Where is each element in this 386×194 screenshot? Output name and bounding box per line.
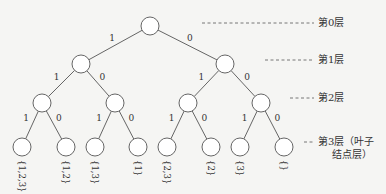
tree-node bbox=[72, 55, 90, 73]
leaf-subset-label: {} bbox=[279, 160, 289, 171]
subset-tree-diagram: 10101010101010 {1,2,3}{1,2}{1,3}{1}{2,3}… bbox=[0, 0, 386, 194]
leaf-node bbox=[275, 138, 293, 156]
edge-label: 1 bbox=[242, 113, 248, 123]
leaf-subset-label: {1,2} bbox=[61, 160, 71, 184]
edge-label: 1 bbox=[96, 113, 102, 123]
leaf-node bbox=[231, 138, 249, 156]
level-label-0: 第0层 bbox=[318, 16, 344, 28]
edge-label: 1 bbox=[109, 33, 115, 43]
tree-nodes bbox=[13, 17, 293, 156]
leaf-subset-label: {1} bbox=[133, 160, 143, 176]
tree-edge bbox=[231, 71, 255, 97]
leaf-subset-label: {2} bbox=[206, 160, 216, 176]
edge-label: 0 bbox=[244, 72, 250, 82]
level-label-3-line2: 结点层） bbox=[332, 148, 372, 160]
edge-label: 0 bbox=[275, 113, 281, 123]
leaf-subset-label: {3} bbox=[235, 160, 245, 176]
leaf-node bbox=[13, 138, 31, 156]
edge-label: 0 bbox=[56, 113, 62, 123]
edge-label: 1 bbox=[23, 113, 29, 123]
edge-label: 1 bbox=[198, 72, 204, 82]
level-label-1: 第1层 bbox=[318, 53, 344, 65]
edge-label: 0 bbox=[128, 113, 134, 123]
tree-node bbox=[216, 55, 234, 73]
tree-edge bbox=[48, 70, 74, 96]
leaf-subset-labels: {1,2,3}{1,2}{1,3}{1}{2,3}{2}{3}{} bbox=[17, 160, 289, 192]
tree-edge bbox=[87, 71, 109, 96]
level-label-3: 第3层（叶子 bbox=[318, 135, 374, 147]
edge-label: 0 bbox=[99, 72, 105, 82]
leaf-node bbox=[57, 138, 75, 156]
leaf-subset-label: {1,3} bbox=[90, 160, 100, 184]
tree-node bbox=[106, 94, 124, 112]
tree-canvas: 10101010101010 {1,2,3}{1,2}{1,3}{1}{2,3}… bbox=[0, 0, 386, 194]
level-markers: 第0层第1层第2层第3层（叶子结点层） bbox=[202, 16, 374, 160]
tree-node bbox=[33, 94, 51, 112]
leaf-node bbox=[202, 138, 220, 156]
leaf-node bbox=[129, 138, 147, 156]
edge-labels: 10101010101010 bbox=[23, 33, 280, 123]
leaf-subset-label: {2,3} bbox=[162, 160, 172, 184]
leaf-node bbox=[86, 138, 104, 156]
edge-label: 1 bbox=[54, 72, 60, 82]
level-label-2: 第2层 bbox=[318, 91, 344, 103]
tree-edge bbox=[89, 30, 142, 59]
leaf-node bbox=[158, 138, 176, 156]
leaf-subset-label: {1,2,3} bbox=[17, 160, 27, 192]
edge-label: 0 bbox=[187, 33, 193, 43]
tree-node bbox=[179, 94, 197, 112]
edge-label: 1 bbox=[169, 113, 175, 123]
edge-label: 0 bbox=[201, 113, 207, 123]
tree-node bbox=[252, 94, 270, 112]
tree-node bbox=[141, 17, 159, 35]
